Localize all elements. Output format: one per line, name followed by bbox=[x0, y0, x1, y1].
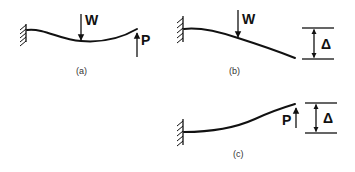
load-w-label: W bbox=[85, 12, 99, 28]
beam-curve bbox=[27, 29, 137, 41]
load-p-label: P bbox=[141, 32, 150, 48]
fixed-support-icon bbox=[177, 16, 183, 43]
fixed-support-icon bbox=[20, 24, 26, 46]
diagram-b: W Δ (b) bbox=[177, 10, 334, 76]
beam-curve bbox=[184, 104, 295, 132]
caption-a: (a) bbox=[76, 66, 87, 76]
caption-b: (b) bbox=[229, 66, 240, 76]
beam-deflection-figure: W P (a) W Δ (b) bbox=[0, 0, 355, 172]
deflection-label: Δ bbox=[321, 36, 331, 52]
fixed-support-icon bbox=[177, 119, 183, 146]
load-p-label: P bbox=[282, 112, 291, 128]
caption-c: (c) bbox=[233, 149, 244, 159]
diagram-c: P Δ (c) bbox=[177, 103, 337, 159]
beam-curve bbox=[184, 29, 295, 58]
diagram-a: W P (a) bbox=[20, 12, 150, 76]
load-w-label: W bbox=[242, 11, 256, 27]
deflection-label: Δ bbox=[323, 110, 333, 126]
